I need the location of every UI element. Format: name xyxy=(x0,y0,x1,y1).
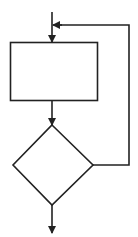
flowchart-canvas xyxy=(0,0,138,237)
process-box xyxy=(11,43,98,101)
decision-diamond xyxy=(13,125,93,205)
flowchart-diagram xyxy=(0,0,138,237)
